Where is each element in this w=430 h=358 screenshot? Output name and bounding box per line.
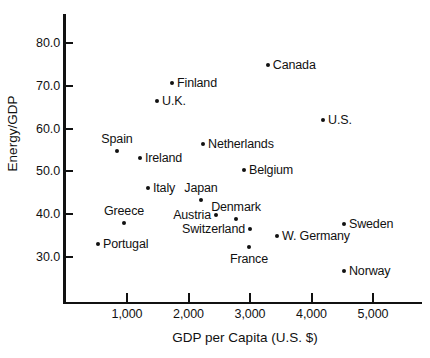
data-point — [266, 63, 270, 67]
x-axis-tick — [311, 293, 313, 302]
y-axis-tick-label-wrap: 70.0 — [16, 79, 60, 93]
data-point — [342, 222, 346, 226]
y-axis-tick — [65, 128, 73, 130]
y-axis-tick-label-wrap: 30.0 — [16, 250, 60, 264]
data-point — [199, 198, 203, 202]
y-axis-tick-label: 50.0 — [24, 164, 60, 178]
data-point-label: France — [230, 252, 268, 266]
data-point — [342, 269, 346, 273]
data-point — [155, 99, 159, 103]
data-point — [96, 242, 100, 246]
x-axis-tick-label: 5,000 — [343, 307, 403, 321]
data-point-label: Finland — [177, 76, 217, 90]
x-axis-tick — [249, 293, 251, 302]
data-point — [247, 245, 251, 249]
x-axis-line — [63, 302, 422, 305]
data-point-label: U.S. — [328, 113, 352, 127]
data-point-label: W. Germany — [282, 229, 350, 243]
y-axis-tick — [65, 170, 73, 172]
y-axis-title: Energy/GDP — [5, 86, 20, 182]
data-point — [115, 149, 119, 153]
x-axis-tick — [126, 293, 128, 302]
y-axis-tick-label-wrap: 60.0 — [16, 122, 60, 136]
y-axis-tick-label: 40.0 — [24, 207, 60, 221]
data-point — [138, 156, 142, 160]
data-point-label: U.K. — [162, 94, 186, 108]
data-point-label: Netherlands — [208, 137, 274, 151]
data-point-label: Spain — [101, 132, 132, 146]
x-axis-tick-label: 1,000 — [97, 307, 157, 321]
x-axis-tick — [188, 293, 190, 302]
x-axis-tick — [372, 293, 374, 302]
data-point — [201, 142, 205, 146]
x-axis-title: GDP per Capita (U.S. $) — [120, 330, 370, 345]
data-point-label: Sweden — [349, 217, 393, 231]
y-axis-tick — [65, 42, 73, 44]
data-point — [242, 168, 246, 172]
y-axis-tick-label: 80.0 — [24, 36, 60, 50]
y-axis-tick — [65, 85, 73, 87]
data-point-label: Canada — [273, 58, 316, 72]
data-point — [321, 118, 325, 122]
data-point-label: Portugal — [103, 237, 148, 251]
y-axis-tick-label-wrap: 80.0 — [16, 36, 60, 50]
data-point — [146, 186, 150, 190]
data-point-label: Italy — [153, 181, 175, 195]
data-point-label: Japan — [184, 181, 217, 195]
data-point-label: Austria — [173, 208, 211, 222]
data-point-label: Belgium — [249, 163, 293, 177]
data-point — [275, 234, 279, 238]
scatter-chart: 30.040.050.060.070.080.0 1,0002,0003,000… — [0, 0, 430, 358]
y-axis-tick-label-wrap: 40.0 — [16, 207, 60, 221]
y-axis-tick-label-wrap: 50.0 — [16, 164, 60, 178]
data-point — [234, 217, 238, 221]
y-axis-tick — [65, 213, 73, 215]
x-axis-tick-label: 3,000 — [220, 307, 280, 321]
data-point-label: Ireland — [145, 151, 182, 165]
x-axis-tick-label: 4,000 — [282, 307, 342, 321]
y-axis-tick-label: 30.0 — [24, 250, 60, 264]
data-point-label: Denmark — [211, 200, 261, 214]
data-point — [170, 81, 174, 85]
y-axis-tick — [65, 256, 73, 258]
x-axis-tick-label: 2,000 — [159, 307, 219, 321]
data-point — [122, 221, 126, 225]
data-point-label: Norway — [349, 264, 390, 278]
y-axis-line — [63, 14, 66, 304]
y-axis-tick-label: 60.0 — [24, 122, 60, 136]
data-point — [248, 227, 252, 231]
data-point-label: Greece — [104, 204, 144, 218]
data-point-label: Switzerland — [182, 222, 245, 236]
y-axis-tick-label: 70.0 — [24, 79, 60, 93]
